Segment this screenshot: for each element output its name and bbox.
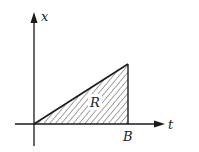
arrow-right-icon (154, 121, 165, 128)
region-label: R (89, 95, 100, 110)
region-r (34, 64, 128, 124)
x-axis-vertical (31, 12, 38, 146)
diagram-canvas: x t R B (0, 0, 199, 152)
b-tick-label: B (122, 129, 133, 144)
x-axis-label: x (41, 9, 49, 24)
t-axis-label: t (168, 117, 174, 132)
arrow-up-icon (31, 12, 38, 23)
